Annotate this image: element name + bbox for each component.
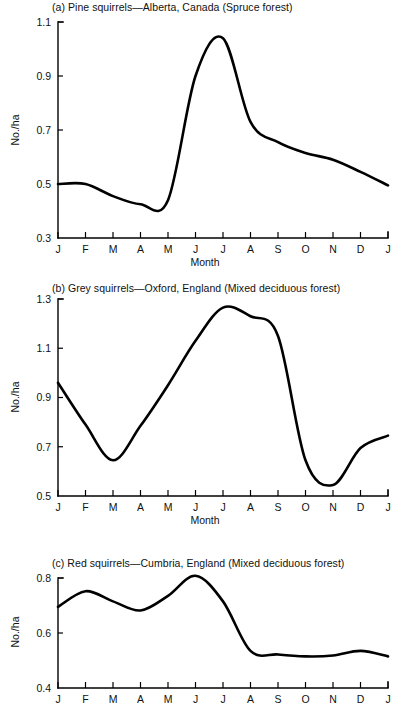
x-tick-label: O (301, 693, 309, 705)
x-tick-label: J (220, 693, 225, 705)
x-tick-label: J (55, 693, 60, 705)
x-tick-label: J (193, 693, 198, 705)
x-tick-label: F (82, 693, 88, 705)
y-tick-label: 0.8 (36, 572, 51, 584)
squirrel-density-figure: (a) Pine squirrels—Alberta, Canada (Spru… (0, 0, 410, 720)
x-tick-label: S (274, 693, 281, 705)
density-curve (58, 576, 388, 657)
x-tick-label: A (247, 693, 254, 705)
x-tick-label: D (357, 693, 365, 705)
x-tick-label: M (164, 693, 173, 705)
x-tick-label: A (137, 693, 144, 705)
x-tick-label: J (385, 693, 390, 705)
y-tick-label: 0.4 (36, 682, 51, 694)
x-tick-label: M (109, 693, 118, 705)
panel-c-plot: 0.40.60.8JFMAMJJASONDJ (0, 0, 410, 720)
x-tick-label: N (329, 693, 337, 705)
y-tick-label: 0.6 (36, 627, 51, 639)
